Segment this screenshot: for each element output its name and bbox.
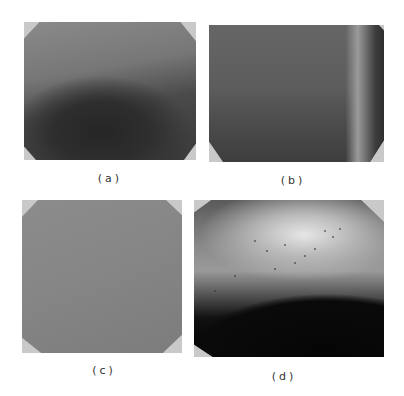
wafer-photo-d <box>194 200 384 357</box>
caption-c: (c) <box>74 364 134 377</box>
wafer-photo-a <box>24 22 196 160</box>
caption-d: (d) <box>254 370 314 383</box>
wafer-photo-c <box>22 200 182 353</box>
wafer-photo-b <box>209 25 384 162</box>
caption-b: (b) <box>263 174 323 187</box>
caption-a: (a) <box>80 172 140 185</box>
